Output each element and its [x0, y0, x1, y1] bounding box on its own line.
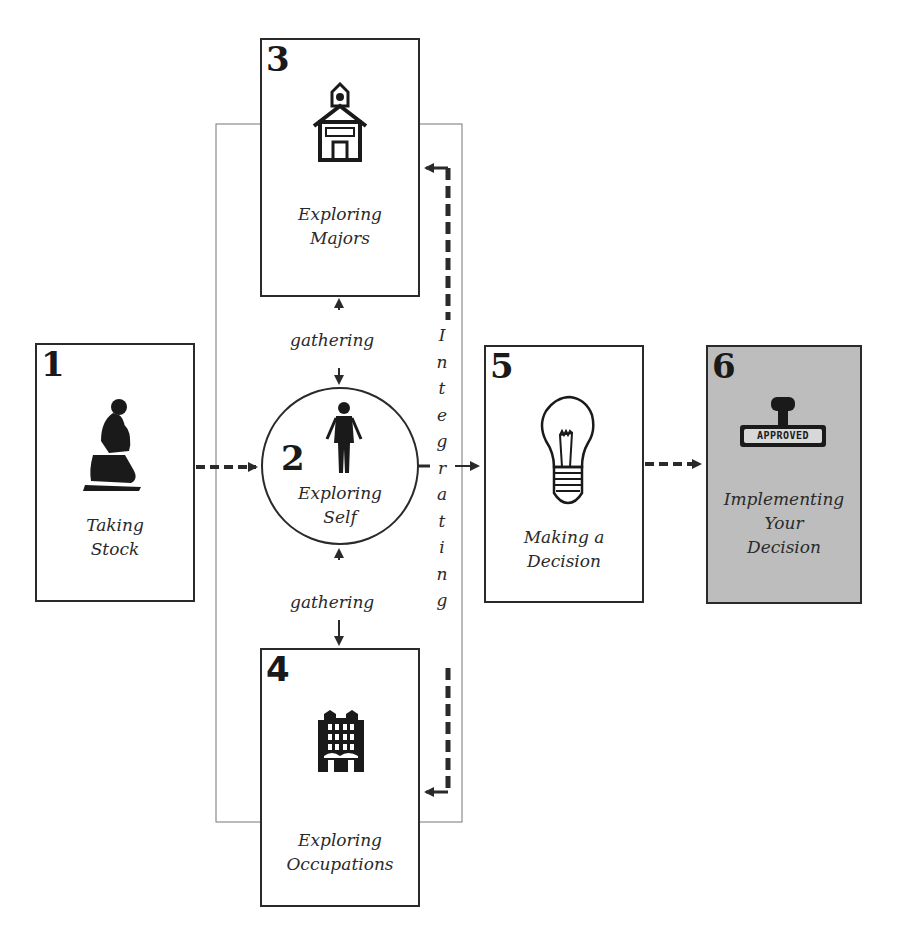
step-3-exploring-majors: 3 Exploring Majors	[260, 38, 420, 297]
step-number: 6	[712, 347, 736, 385]
step-number: 5	[490, 347, 514, 385]
step-4-exploring-occupations: 4 Exploring Occupations	[260, 648, 420, 907]
step-number: 3	[266, 40, 290, 78]
schoolhouse-icon	[312, 82, 368, 164]
step-5-making-a-decision: 5 Making a Decision	[484, 345, 644, 603]
step-number: 1	[41, 345, 65, 383]
thinker-statue-icon	[79, 397, 147, 493]
lightbulb-icon	[538, 395, 598, 507]
step-2-exploring-self: 2 Exploring Self	[261, 387, 419, 545]
gathering-label-bottom: gathering	[290, 592, 374, 612]
person-figure-icon	[323, 401, 365, 477]
stamp-text: APPROVED	[744, 429, 822, 443]
career-decision-diagram: 3 Exploring Majors 1 Taking Stock	[0, 0, 899, 939]
step-number: 2	[281, 439, 305, 477]
step-number: 4	[266, 650, 290, 688]
step-label: Exploring Self	[263, 481, 417, 529]
step-1-taking-stock: 1 Taking Stock	[35, 343, 195, 602]
step-label: Exploring Majors	[262, 202, 418, 250]
integrating-label: I n t e g r a t i n g	[432, 322, 452, 614]
step-label: Implementing Your Decision	[708, 487, 860, 559]
step-label: Making a Decision	[486, 525, 642, 573]
office-building-icon	[318, 710, 364, 772]
step-6-implementing-your-decision: 6 APPROVED Implementing Your Decision	[706, 345, 862, 604]
step-label: Taking Stock	[37, 513, 193, 561]
step-label: Exploring Occupations	[262, 828, 418, 876]
approved-stamp-icon: APPROVED	[738, 395, 828, 451]
gathering-label-top: gathering	[290, 330, 374, 350]
